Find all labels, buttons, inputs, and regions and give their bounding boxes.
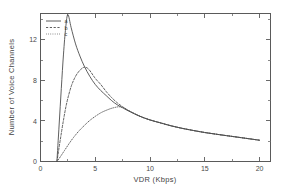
- legend-label-a: a: [65, 18, 69, 24]
- series-curve-c: [57, 107, 260, 162]
- y-tick-label: 4: [33, 118, 37, 125]
- series-curve-b: [57, 67, 260, 161]
- x-axis-label: VDR (Kbps): [133, 175, 176, 184]
- series-curve-a: [57, 15, 260, 162]
- axis-tick-labels: 0510152004812: [29, 36, 263, 172]
- y-axis-label: Number of Voice Channels: [7, 39, 16, 135]
- axis-ticks: [41, 14, 271, 162]
- plot-frame: [41, 14, 271, 162]
- x-tick-label: 15: [201, 165, 209, 172]
- y-tick-label: 8: [33, 77, 37, 84]
- chart-legend: abc: [46, 18, 69, 37]
- line-chart: 0510152004812 abc VDR (Kbps) Number of V…: [0, 0, 291, 190]
- x-tick-label: 5: [93, 165, 97, 172]
- x-tick-label: 0: [39, 165, 43, 172]
- x-tick-label: 10: [146, 165, 154, 172]
- x-tick-label: 20: [256, 165, 264, 172]
- data-curves: [57, 15, 260, 162]
- chart-figure: 0510152004812 abc VDR (Kbps) Number of V…: [0, 0, 291, 190]
- legend-label-b: b: [65, 25, 68, 31]
- y-tick-label: 0: [33, 158, 37, 165]
- y-tick-label: 12: [29, 36, 37, 43]
- legend-label-c: c: [65, 31, 68, 37]
